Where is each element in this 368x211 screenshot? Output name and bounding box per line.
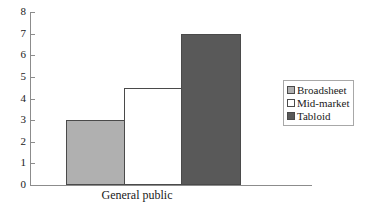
- bar-mid-market: [124, 88, 182, 185]
- bar-chart: 876543210 General public BroadsheetMid-m…: [0, 0, 368, 211]
- legend-swatch-icon: [287, 86, 295, 94]
- legend-item-label: Tabloid: [297, 110, 330, 122]
- legend-swatch-icon: [287, 112, 295, 120]
- x-axis-line: [30, 185, 312, 186]
- bar-broadsheet: [66, 120, 125, 185]
- y-axis-tick-label: 5: [6, 71, 26, 82]
- legend-item: Mid-market: [287, 96, 350, 109]
- y-axis-tick-label: 4: [6, 93, 26, 104]
- legend-item: Tabloid: [287, 109, 350, 122]
- bar-tabloid: [181, 34, 241, 185]
- y-axis-tick-label: 7: [6, 28, 26, 39]
- x-axis-label: General public: [30, 188, 244, 202]
- y-axis-tick-label: 6: [6, 49, 26, 60]
- chart-legend: BroadsheetMid-marketTabloid: [283, 80, 354, 126]
- legend-item: Broadsheet: [287, 83, 350, 96]
- y-axis-tick-label: 3: [6, 114, 26, 125]
- y-axis-tick-label: 0: [6, 179, 26, 190]
- bars-layer: [30, 12, 310, 185]
- plot-area: [30, 12, 310, 185]
- y-axis-tick-label: 8: [6, 6, 26, 17]
- legend-swatch-icon: [287, 99, 295, 107]
- y-axis-tick-label: 2: [6, 136, 26, 147]
- legend-item-label: Broadsheet: [297, 84, 346, 96]
- y-axis-tick-label: 1: [6, 157, 26, 168]
- legend-item-label: Mid-market: [297, 97, 350, 109]
